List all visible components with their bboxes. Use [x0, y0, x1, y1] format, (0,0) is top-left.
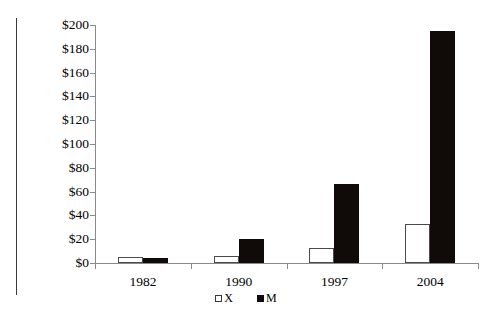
y-tick-mark	[90, 239, 95, 240]
y-tick-mark	[90, 144, 95, 145]
legend-label-x: X	[224, 292, 233, 304]
x-category-label: 1990	[225, 275, 252, 289]
legend-swatch-m-icon	[257, 295, 264, 302]
y-tick-label: $180	[62, 42, 89, 56]
y-axis-line	[95, 25, 96, 263]
y-tick-label: $0	[76, 256, 90, 270]
x-tick-mark	[95, 263, 96, 269]
legend-label-m: M	[266, 292, 277, 304]
y-tick-mark	[90, 96, 95, 97]
y-tick-mark	[90, 192, 95, 193]
y-tick-mark	[90, 120, 95, 121]
y-tick-label: $60	[69, 185, 89, 199]
legend-item-m: M	[257, 292, 277, 304]
y-tick-label: $140	[62, 90, 89, 104]
y-tick-label: $80	[69, 161, 89, 175]
x-tick-mark	[191, 263, 192, 269]
y-tick-label: $20	[69, 232, 89, 246]
x-category-label: 1997	[321, 275, 348, 289]
chart-legend: X M	[0, 292, 492, 304]
bar-x-1990	[214, 256, 239, 263]
x-tick-mark	[382, 263, 383, 269]
bar-m-1982	[143, 258, 168, 263]
bar-x-2004	[405, 224, 430, 263]
y-tick-mark	[90, 49, 95, 50]
y-tick-label: $120	[62, 113, 89, 127]
bar-m-2004	[430, 31, 455, 263]
y-tick-mark	[90, 168, 95, 169]
x-category-label: 1982	[129, 275, 156, 289]
x-tick-mark	[287, 263, 288, 269]
bar-chart: $0$20$40$60$80$100$120$140$160$180$200 1…	[0, 0, 492, 334]
page-edge-rule	[16, 18, 17, 295]
y-tick-mark	[90, 215, 95, 216]
bar-m-1997	[334, 184, 359, 263]
legend-swatch-x-icon	[215, 295, 222, 302]
x-category-label: 2004	[417, 275, 444, 289]
y-tick-mark	[90, 73, 95, 74]
y-tick-label: $100	[62, 137, 89, 151]
y-tick-label: $40	[69, 209, 89, 223]
y-tick-label: $200	[62, 18, 89, 32]
y-tick-label: $160	[62, 66, 89, 80]
bar-x-1997	[309, 248, 334, 263]
bar-x-1982	[118, 257, 143, 263]
x-tick-mark	[478, 263, 479, 269]
y-tick-mark	[90, 25, 95, 26]
legend-item-x: X	[215, 292, 233, 304]
plot-area: $0$20$40$60$80$100$120$140$160$180$200 1…	[95, 25, 478, 263]
bar-m-1990	[239, 239, 264, 263]
